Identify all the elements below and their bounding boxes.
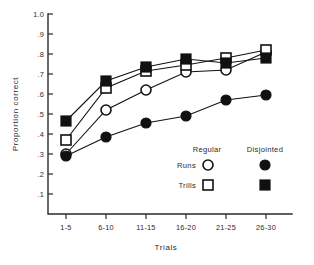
x-tick-label: 21-25 [216,223,236,232]
data-point-marker [61,135,71,145]
x-tick-label: 1-5 [60,223,71,232]
data-point-marker [141,62,151,72]
data-point-marker [141,85,151,95]
x-tick-label: 6-10 [98,223,114,232]
series-line [66,95,266,156]
y-tick-label: .4 [37,130,44,139]
y-tick-label: .6 [37,90,44,99]
x-axis-ticks [66,214,266,219]
proportion-correct-line-chart: 1.0 .9 .8 .7 .6 .5 .4 .3 .2 .1 1-5 6-10 … [0,0,314,265]
series-line [66,52,266,154]
y-tick-label: .9 [37,30,44,39]
data-point-marker [261,90,271,100]
legend-column-regular-label: Regular [193,145,222,154]
data-point-marker [101,76,111,86]
y-tick-label: .1 [37,190,44,199]
legend-column-disjointed-label: Disjointed [247,145,283,154]
legend-row-trills-label: Trills [178,181,196,190]
y-tick-label: .8 [37,50,44,59]
data-point-marker [141,118,151,128]
y-tick-label: .7 [37,70,44,79]
legend-row-runs-label: Runs [177,161,196,170]
y-tick-label: .3 [37,150,44,159]
legend-marker-regular-trills [203,180,213,190]
chart-figure: 1.0 .9 .8 .7 .6 .5 .4 .3 .2 .1 1-5 6-10 … [0,0,314,265]
data-point-marker [101,132,111,142]
data-point-marker [61,151,71,161]
data-point-marker [101,105,111,115]
x-axis-title: Trials [155,243,178,252]
legend-marker-disjointed-trills [260,180,270,190]
x-axis-tick-labels: 1-5 6-10 11-15 16-20 21-25 26-30 [60,223,276,232]
y-tick-label: 1.0 [33,10,44,19]
y-tick-label: .2 [37,170,44,179]
x-tick-label: 26-30 [256,223,276,232]
axis-lines [48,14,292,214]
x-tick-label: 16-20 [176,223,196,232]
y-axis-ticks [48,14,53,194]
data-point-marker [181,54,191,64]
y-axis-title: Proportion correct [11,77,20,152]
series-lines-group [66,50,266,156]
y-axis-tick-labels: 1.0 .9 .8 .7 .6 .5 .4 .3 .2 .1 [33,10,44,199]
data-point-marker [181,111,191,121]
legend-marker-regular-runs [203,160,213,170]
data-point-marker [221,58,231,68]
legend-marker-disjointed-runs [260,160,270,170]
data-point-marker [221,95,231,105]
chart-legend: Regular Disjointed Runs Trills [177,145,283,190]
y-tick-label: .5 [37,110,44,119]
x-tick-label: 11-15 [136,223,155,232]
data-point-marker [61,116,71,126]
data-point-marker [261,53,271,63]
